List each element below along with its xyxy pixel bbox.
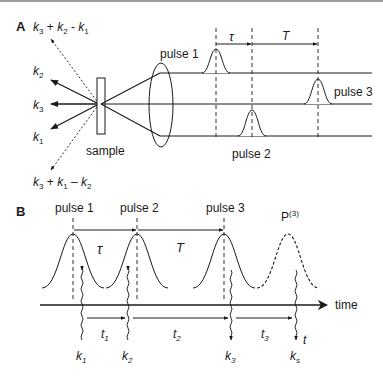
tau-label: τ <box>229 29 235 44</box>
beam1-converge <box>101 73 160 104</box>
panel-b: B pulse 1 pulse 2 pulse 3 P(3) τ T time <box>16 201 358 365</box>
signal-label-bottom: k3 + k1 – k2 <box>33 175 92 191</box>
tau-label-b: τ <box>97 241 103 257</box>
pulse2-label-b: pulse 2 <box>120 201 159 215</box>
k1-label-b: k1 <box>76 349 86 365</box>
signal-top-arrow <box>51 39 99 104</box>
panel-a: A k3 + k2 - k1 k2 k3 k1 k3 + k1 – k2 sam… <box>16 19 373 191</box>
time-label: time <box>335 298 358 312</box>
figure-canvas: A k3 + k2 - k1 k2 k3 k1 k3 + k1 – k2 sam… <box>0 0 383 378</box>
diagram-svg: A k3 + k2 - k1 k2 k3 k1 k3 + k1 – k2 sam… <box>0 0 383 378</box>
lens <box>149 63 173 147</box>
signal-bottom-arrow <box>51 104 99 170</box>
k2-label: k2 <box>33 64 44 80</box>
t3-label: t3 <box>261 327 269 343</box>
pulse1-label-b: pulse 1 <box>55 201 94 215</box>
k3-label-b: k3 <box>225 349 236 365</box>
k3-label: k3 <box>33 98 44 114</box>
k1-label: k1 <box>33 130 44 146</box>
t-label: t <box>303 333 307 347</box>
polarization-label: P(3) <box>281 209 299 224</box>
T-label-b: T <box>176 240 185 255</box>
T-label: T <box>282 29 291 43</box>
panel-a-label: A <box>16 19 26 34</box>
k2-out-arrow <box>51 80 99 104</box>
k2-wavy-arrow <box>127 268 129 340</box>
ks-label-b: ks <box>290 349 300 365</box>
pulse3-label-b: pulse 3 <box>206 201 245 215</box>
panel-b-label: B <box>16 204 25 219</box>
pulse2-label: pulse 2 <box>232 147 271 161</box>
pulse1-label: pulse 1 <box>160 47 199 61</box>
k2-label-b: k2 <box>122 349 133 365</box>
signal-label-top: k3 + k2 - k1 <box>33 20 89 36</box>
t2-label: t2 <box>173 327 181 343</box>
sample-label: sample <box>86 144 125 158</box>
k1-wavy-arrow <box>81 268 83 340</box>
polarization-envelope <box>257 234 319 288</box>
t1-label: t1 <box>101 327 109 343</box>
pulse3-label: pulse 3 <box>334 85 373 99</box>
k1-out-arrow <box>51 104 99 129</box>
